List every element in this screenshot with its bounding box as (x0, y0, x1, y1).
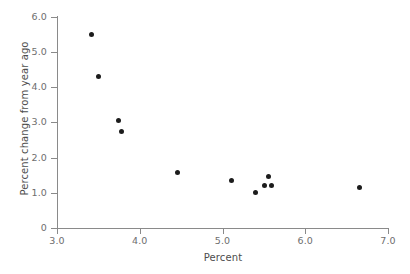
data-point (89, 32, 94, 37)
data-point (119, 129, 124, 134)
data-point (253, 190, 258, 195)
data-point (116, 118, 121, 123)
data-point (269, 183, 274, 188)
data-point (96, 74, 101, 79)
data-point (266, 174, 271, 179)
data-point (262, 183, 267, 188)
data-point (175, 170, 180, 175)
data-point (357, 185, 362, 190)
scatter-chart: 01.02.03.04.05.06.0 3.04.05.06.07.0 Perc… (0, 0, 410, 274)
plot-area (0, 0, 410, 274)
data-point (229, 178, 234, 183)
